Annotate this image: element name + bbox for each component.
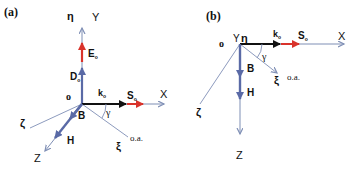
x-label-a: X [160,88,168,100]
gamma-label-b: γ [261,51,267,62]
s-label-a: So [127,90,137,102]
x-label-b: X [338,30,346,42]
panel-b-label: (b) [206,9,221,23]
h-label-b: H [247,87,254,98]
b-label-b: B [247,63,254,74]
y-label-b: Y [233,33,240,44]
zeta-label-b: ζ [196,106,201,119]
panel-a-label: (a) [4,5,18,19]
zeta-label-a: ζ [20,117,25,130]
s-label-b: So [298,30,308,42]
z-label-b: Z [236,149,243,161]
y-label-a: Y [92,11,100,23]
zeta-axis-a [30,104,82,128]
gamma-label-a: γ [105,107,111,118]
e-label-a: Eo [88,48,98,60]
xi-label-a: ξ [116,140,121,153]
optic-axis-a [82,104,128,137]
panel-a: (a) η Y Eo Do o ko So X B γ ζ H ξ o.a. Z [4,5,168,164]
eta-label-b: η [241,32,248,44]
origin-label-b: o [219,38,224,49]
z-label-a: Z [34,152,41,164]
eta-label-a: η [67,10,74,22]
b-label-a: B [78,110,85,121]
optic-axis-b [240,44,277,73]
k-label-b: ko [273,29,281,40]
panel-b: (b) o Y η ko So X γ B ξ o.a. H ζ Z [196,9,346,161]
origin-label-a: o [66,91,71,102]
xi-label-b: ξ [274,74,279,87]
d-label-a: Do [70,71,80,83]
optic-axis-label-a: o.a. [130,133,143,143]
figure: (a) η Y Eo Do o ko So X B γ ζ H ξ o.a. Z… [0,0,359,170]
zeta-axis-b [200,44,240,104]
k-label-a: ko [98,88,106,99]
optic-axis-label-b: o.a. [287,72,300,82]
h-label-a: H [67,135,74,146]
